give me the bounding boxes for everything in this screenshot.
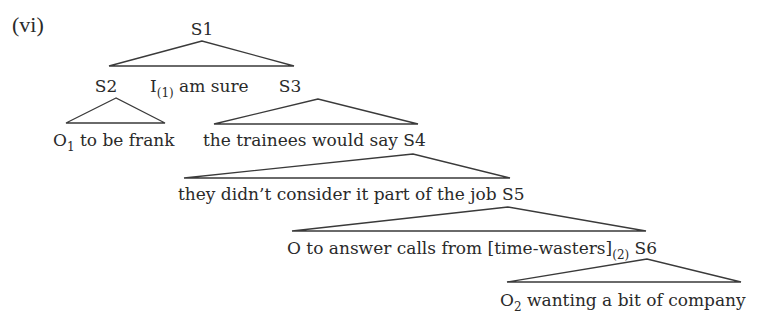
node-s2: S2 — [95, 76, 117, 96]
node-s1: S1 — [191, 19, 213, 39]
triangle-s5 — [292, 207, 646, 231]
clause-wanting-company-pre: O — [500, 290, 514, 310]
clause-didnt-consider: they didn’t consider it part of the job … — [178, 184, 524, 204]
clause-answer-calls: O to answer calls from [time-wasters](2)… — [287, 238, 657, 262]
clause-to-be-frank-post: to be frank — [75, 130, 176, 150]
clause-wanting-company-post: wanting a bit of company — [522, 290, 746, 310]
clause-i-am-sure-pre: I — [150, 76, 157, 96]
zero-subscript-1: 1 — [67, 140, 75, 154]
clause-i-am-sure: I(1) am sure — [150, 76, 249, 100]
clause-answer-calls-post: S6 — [629, 238, 657, 258]
triangle-s4 — [184, 154, 510, 178]
clause-to-be-frank: O1 to be frank — [53, 130, 175, 154]
triangle-s6 — [507, 259, 741, 282]
triangle-s2 — [66, 98, 165, 123]
index-subscript-2: (2) — [612, 248, 629, 262]
triangle-s3 — [214, 99, 418, 124]
clause-answer-calls-pre: O to answer calls from [time-wasters] — [287, 238, 612, 258]
syntax-tree-diagram: (vi) S1 S2 I(1) am sure S3 O1 to be fran… — [0, 0, 774, 336]
zero-subscript-2: 2 — [514, 300, 522, 314]
clause-to-be-frank-pre: O — [53, 130, 67, 150]
clause-wanting-company: O2 wanting a bit of company — [500, 290, 746, 314]
example-label: (vi) — [12, 12, 44, 37]
clause-trainees-would-say: the trainees would say S4 — [203, 130, 426, 150]
node-s3: S3 — [279, 76, 301, 96]
clause-i-am-sure-post: am sure — [174, 76, 249, 96]
index-subscript-1: (1) — [157, 86, 174, 100]
triangle-s1 — [109, 41, 294, 66]
